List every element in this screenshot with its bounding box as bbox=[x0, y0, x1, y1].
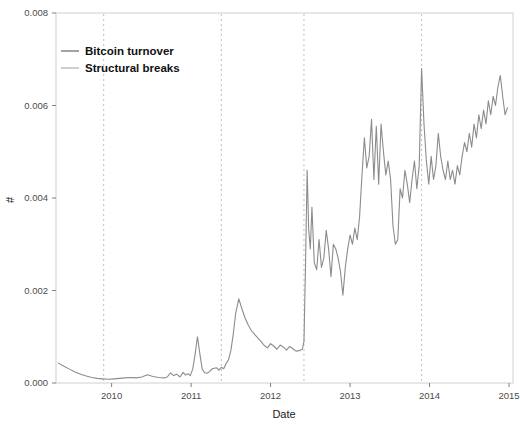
chart-figure: 0.0000.0020.0040.0060.008 20102011201220… bbox=[0, 0, 520, 431]
y-tick-label-2: 0.004 bbox=[24, 192, 48, 203]
y-axis-title: # bbox=[4, 196, 16, 203]
legend-label-structural-breaks: Structural breaks bbox=[85, 62, 180, 74]
chart-canvas: 0.0000.0020.0040.0060.008 20102011201220… bbox=[0, 0, 520, 431]
x-tick-label-2: 2012 bbox=[260, 390, 281, 401]
y-tick-label-1: 0.002 bbox=[24, 285, 48, 296]
y-tick-label-4: 0.008 bbox=[24, 7, 48, 18]
legend-label-bitcoin-turnover: Bitcoin turnover bbox=[85, 45, 174, 57]
x-tick-label-5: 2015 bbox=[498, 390, 519, 401]
x-tick-label-0: 2010 bbox=[101, 390, 122, 401]
x-axis: 201020112012201320142015 bbox=[101, 383, 520, 401]
y-axis: 0.0000.0020.0040.0060.008 bbox=[24, 7, 56, 388]
y-tick-label-0: 0.000 bbox=[24, 377, 48, 388]
x-tick-label-1: 2011 bbox=[181, 390, 201, 401]
x-tick-label-4: 2014 bbox=[419, 390, 440, 401]
x-axis-title: Date bbox=[272, 408, 295, 420]
y-tick-label-3: 0.006 bbox=[24, 100, 48, 111]
x-tick-label-3: 2013 bbox=[339, 390, 360, 401]
